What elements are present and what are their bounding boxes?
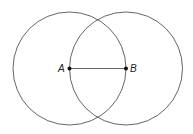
diagram-canvas: A B	[0, 0, 193, 134]
label-a: A	[57, 63, 65, 74]
point-b	[124, 67, 128, 71]
point-a	[68, 67, 72, 71]
label-b: B	[130, 63, 137, 74]
